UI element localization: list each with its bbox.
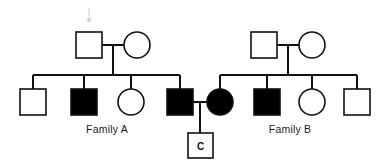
symbol-male-unaffected-family-a-father [76,32,102,58]
family-a-group: Family A [20,32,193,135]
symbol-female-unaffected-family-a-mother [124,32,150,58]
symbol-female-affected-b-child-1 [207,89,233,115]
symbol-female-unaffected-a-child-3 [118,89,144,115]
symbol-male-unaffected-family-b-father [251,32,277,58]
symbol-male-affected-b-child-2 [254,89,280,115]
family-b-group: Family B [207,32,370,135]
family-b-label: Family B [269,123,311,135]
scan-artifact-mark [87,8,93,22]
symbol-female-unaffected-b-child-3 [299,89,325,115]
pedigree-chart: Family A Family B [0,0,386,165]
symbol-male-unaffected-a-child-1 [20,89,46,115]
pedigree-canvas: Family A Family B [0,0,386,165]
symbol-male-affected-a-child-4 [167,89,193,115]
symbol-male-unaffected-b-child-4 [344,89,370,115]
child-c-label: C [197,141,204,152]
symbol-male-affected-a-child-2 [71,89,97,115]
symbol-female-unaffected-family-b-mother [299,32,325,58]
family-a-label: Family A [86,123,128,135]
